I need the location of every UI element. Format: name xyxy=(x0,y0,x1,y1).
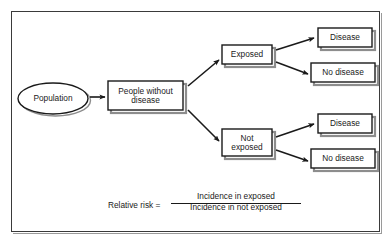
edge-exposed-to-disease xyxy=(276,38,314,50)
edge-people-to-exposed xyxy=(188,60,219,86)
relative-risk-label: Relative risk = xyxy=(108,200,160,210)
edge-not-exposed-to-disease xyxy=(276,124,314,137)
edge-exposed-to-no-disease xyxy=(276,62,308,74)
not-exposed-disease-box[interactable] xyxy=(318,114,372,133)
not-exposed-no-disease-box[interactable] xyxy=(311,149,375,168)
edge-not-exposed-to-no-disease xyxy=(276,150,308,161)
exposed-box[interactable] xyxy=(222,45,272,64)
diagram-figure: Population People without disease Expose… xyxy=(0,0,391,246)
not-exposed-box[interactable] xyxy=(222,129,272,156)
fraction-numerator: Incidence in exposed xyxy=(172,191,300,202)
people-without-disease-box[interactable] xyxy=(108,81,183,110)
exposed-no-disease-box[interactable] xyxy=(311,63,375,82)
edge-people-to-not-exposed xyxy=(188,110,219,141)
relative-risk-fraction: Incidence in exposed Incidence in not ex… xyxy=(172,191,300,212)
population-ellipse[interactable] xyxy=(18,83,88,114)
exposed-disease-box[interactable] xyxy=(318,28,372,47)
fraction-bar xyxy=(171,203,301,204)
